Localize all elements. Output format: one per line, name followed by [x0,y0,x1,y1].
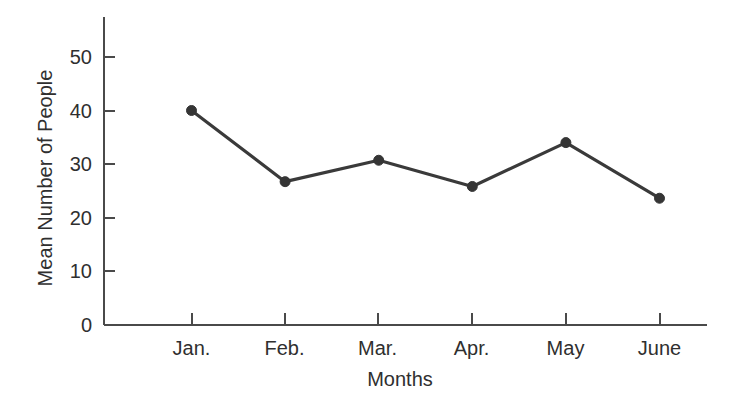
data-point-apr [467,181,477,191]
x-tick-label-apr: Apr. [454,337,490,359]
y-tick-label-10: 10 [70,260,92,282]
x-tick-label-jan: Jan. [173,337,211,359]
data-point-feb [280,177,290,187]
data-point-june [655,193,665,203]
x-axis-title: Months [367,368,433,390]
y-tick-label-50: 50 [70,46,92,68]
chart-canvas: 50 40 30 20 10 0 Jan. Feb. Mar. Apr. May… [0,0,732,399]
data-point-may [561,138,571,148]
y-tick-label-30: 30 [70,153,92,175]
x-tick-label-feb: Feb. [264,337,304,359]
y-tick-label-0: 0 [81,314,92,336]
x-tick-label-may: May [547,337,585,359]
x-tick-label-june: June [638,337,681,359]
data-point-mar [374,155,384,165]
data-point-jan [187,106,197,116]
y-axis-title: Mean Number of People [34,70,56,287]
y-tick-label-40: 40 [70,100,92,122]
y-tick-label-20: 20 [70,207,92,229]
line-chart-figure: 50 40 30 20 10 0 Jan. Feb. Mar. Apr. May… [0,0,732,399]
x-tick-label-mar: Mar. [358,337,397,359]
